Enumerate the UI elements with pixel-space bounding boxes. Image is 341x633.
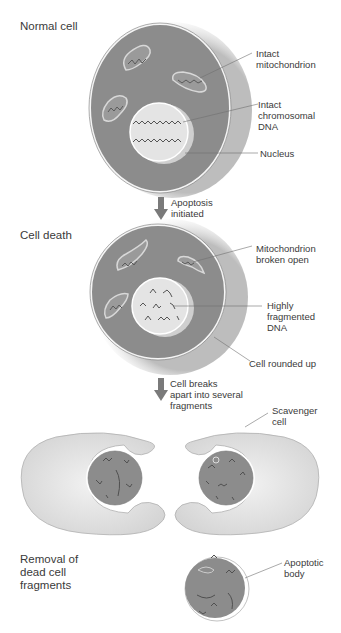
stage-title-death: Cell death bbox=[20, 229, 72, 242]
arrow-down-icon bbox=[154, 197, 168, 220]
stage-title-removal: Removal of dead cell fragments bbox=[20, 553, 78, 592]
label-intact-dna: Intact chromosomal DNA bbox=[258, 99, 315, 132]
stage-title-normal: Normal cell bbox=[20, 20, 78, 33]
label-scavenger-cell: Scavenger cell bbox=[272, 405, 317, 427]
nucleus bbox=[130, 103, 188, 161]
scavenger-cell-right bbox=[175, 413, 319, 535]
label-apoptotic-body: Apoptotic body bbox=[284, 557, 324, 579]
apoptotic-body bbox=[185, 555, 282, 621]
label-cell-rounded: Cell rounded up bbox=[249, 358, 316, 369]
scavenger-cell-left bbox=[21, 433, 165, 535]
arrow-down-icon bbox=[154, 378, 168, 401]
label-fragmented-dna: Highly fragmented DNA bbox=[267, 300, 315, 333]
label-apoptosis-initiated: Apoptosis initiated bbox=[171, 197, 213, 219]
label-mitochondrion-broken: Mitochondrion broken open bbox=[256, 243, 316, 265]
normal-cell bbox=[89, 22, 258, 198]
label-nucleus: Nucleus bbox=[260, 148, 294, 159]
label-intact-mitochondrion: Intact mitochondrion bbox=[256, 48, 316, 70]
label-cell-breaks: Cell breaks apart into several fragments bbox=[170, 378, 243, 411]
dying-cell bbox=[90, 219, 262, 375]
